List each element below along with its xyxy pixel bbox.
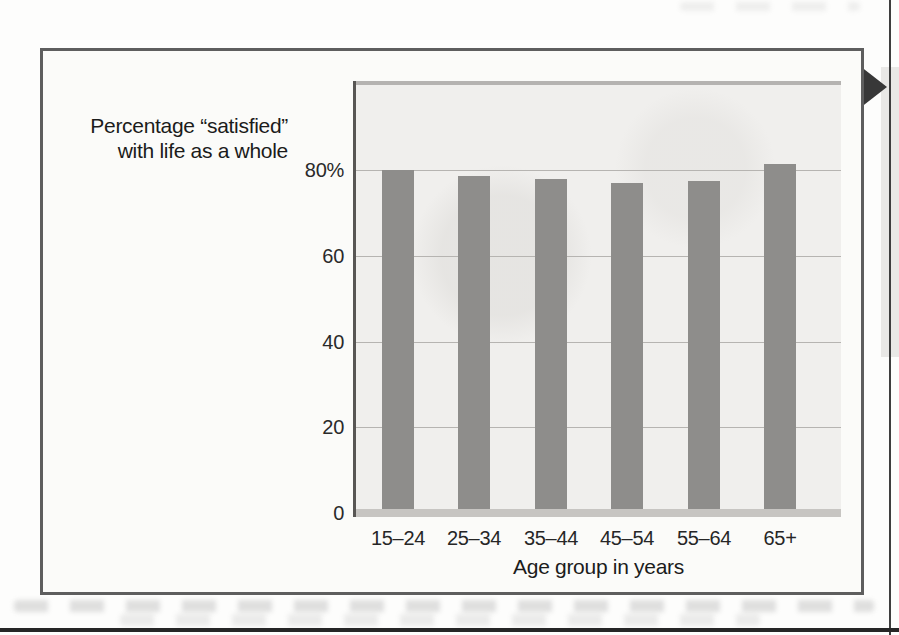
y-tick-label-20: 20 [284,414,344,440]
x-axis-baseline [353,509,841,517]
plot-area: 020406080% 15–2425–3435–4445–5455–6465+ … [356,81,841,517]
y-tick-label-0: 0 [284,500,344,526]
bleed-through-text [680,2,860,11]
chart-title: Percentage “satisfied” with life as a wh… [90,113,288,163]
bar-15–24 [382,170,414,509]
bottom-rule [0,628,899,632]
bar-35–44 [535,179,567,509]
bleed-through-text [14,600,874,612]
y-tick-label-40: 40 [284,329,344,355]
bleed-through-text [120,614,760,626]
chart-title-line1: Percentage “satisfied” [90,113,288,138]
chart-figure: Percentage “satisfied” with life as a wh… [40,48,864,595]
x-axis-title: Age group in years [356,555,841,579]
bar-45–54 [611,183,643,509]
bar-65+ [764,164,796,509]
plot-top-border [356,81,841,85]
y-tick-label-60: 60 [284,243,344,269]
chart-title-line2: with life as a whole [90,138,288,163]
bar-25–34 [458,176,490,509]
x-tick-label-65+: 65+ [735,527,825,550]
y-tick-label-80: 80% [284,157,344,183]
bar-55–64 [688,181,720,509]
y-axis-line [353,81,356,517]
